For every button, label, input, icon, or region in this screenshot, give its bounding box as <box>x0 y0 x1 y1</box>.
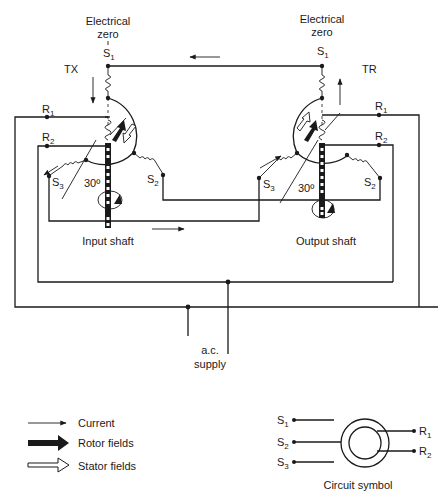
tx-r2-label: R2 <box>42 131 55 146</box>
symbol-s1-label: S1 <box>277 414 289 429</box>
legend-stator-field-icon <box>28 458 69 472</box>
synchro-diagram: Electrical zero S1 TX S2 S3 <box>0 0 442 496</box>
legend-stator-label: Stator fields <box>78 460 137 472</box>
tr-r2-label: R2 <box>375 130 388 145</box>
ac-supply-label-line1: a.c. <box>201 344 219 356</box>
tx-s1-coil-icon <box>106 66 111 97</box>
tx-angle-label: 30º <box>84 177 100 189</box>
tr-s3-label: S3 <box>263 178 275 193</box>
symbol-outer-circle <box>341 419 389 467</box>
output-shaft-label: Output shaft <box>296 235 356 247</box>
tr-rotation-arrowhead <box>327 203 335 213</box>
tx-label: TX <box>64 63 79 75</box>
wire-tr-r1 <box>322 115 419 307</box>
tr-s1-label: S1 <box>317 45 329 60</box>
tr-r1-label: R1 <box>375 100 388 115</box>
wire-tx-r2 <box>38 146 393 282</box>
tr-label: TR <box>362 63 377 75</box>
symbol-inner-circle <box>349 427 381 459</box>
tr-s1-coil-icon <box>320 66 325 97</box>
symbol-r1-label: R1 <box>419 425 432 440</box>
tx-zero-label-line1: Electrical <box>86 15 131 27</box>
tx-s1-label: S1 <box>103 47 115 62</box>
ac-supply-label-line2: supply <box>194 358 226 370</box>
legend-rotor-field-icon <box>28 435 69 451</box>
tr-rotor-field-arrow-icon <box>304 120 318 142</box>
tr-zero-label-line2: zero <box>311 26 332 38</box>
receiver-tr: Electrical zero S1 TR S3 S2 30 <box>257 13 388 247</box>
tx-s2-label: S2 <box>147 173 159 188</box>
input-shaft-label: Input shaft <box>82 235 133 247</box>
circuit-symbol-caption: Circuit symbol <box>323 479 392 491</box>
legend: Current Rotor fields Stator fields <box>28 417 137 472</box>
tx-s3-label: S3 <box>52 176 64 191</box>
tr-s2-coil-icon <box>347 155 380 178</box>
circuit-symbol: S1 S2 S3 R1 R2 Circuit symbol <box>277 414 432 491</box>
legend-current-label: Current <box>78 417 115 429</box>
symbol-s2-label: S2 <box>277 436 289 451</box>
tx-s2-coil-icon <box>134 153 163 174</box>
tx-angle-line <box>62 140 96 199</box>
transmitter-tx: Electrical zero S1 TX S2 S3 <box>42 15 184 247</box>
legend-rotor-label: Rotor fields <box>78 437 134 449</box>
tr-s2-label: S2 <box>364 176 376 191</box>
tr-angle-label: 30º <box>298 182 314 194</box>
tr-zero-label-line1: Electrical <box>300 13 345 25</box>
symbol-s3-label: S3 <box>277 456 289 471</box>
tr-shaft <box>319 143 325 218</box>
symbol-r2-label: R2 <box>419 445 432 460</box>
tx-zero-label-line2: zero <box>97 28 118 40</box>
